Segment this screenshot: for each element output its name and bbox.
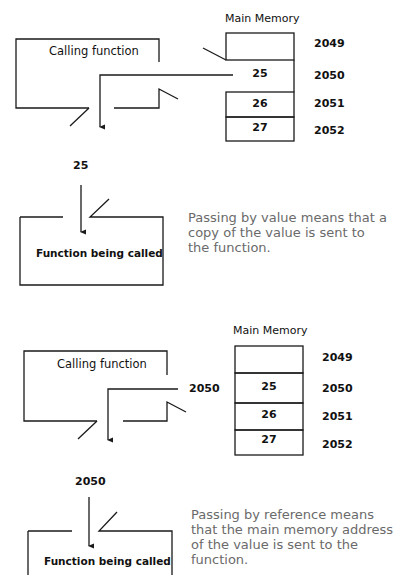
memory-cell-value-2051: 26 [235,408,303,421]
memory-title-reference: Main Memory [233,324,308,337]
memory-address-2051: 2051 [322,410,353,423]
memory-cell-value-2052: 27 [226,121,294,134]
value-caption: Passing by value means that a copy of th… [188,210,388,255]
calling-function-label-value: Calling function [49,44,139,58]
passed-address-label: 2050 [75,475,106,488]
memory-cell-value-2050: 25 [235,380,303,393]
memory-cell-value-2051: 26 [226,97,294,110]
memory-cell-value-2050: 25 [226,67,294,80]
called-function-box-value [20,199,163,285]
passed-value-label: 25 [73,159,88,172]
diagram-canvas: Main Memory Calling function 25 26 27 20… [0,0,405,575]
pointer-address-label: 2050 [189,382,220,395]
called-function-label-reference: Function being called [44,555,171,567]
memory-address-2051: 2051 [314,97,345,110]
reference-caption: Passing by reference means that the main… [191,507,403,567]
memory-address-2049: 2049 [314,37,345,50]
memory-cell-value-2052: 27 [235,433,303,446]
diagram-lines [0,0,405,575]
memory-address-2052: 2052 [314,124,345,137]
memory-address-2050: 2050 [322,382,353,395]
memory-address-2052: 2052 [322,438,353,451]
memory-address-2049: 2049 [322,351,353,364]
memory-address-2050: 2050 [314,69,345,82]
calling-function-label-reference: Calling function [57,357,147,371]
called-function-label-value: Function being called [36,247,163,259]
memory-title-value: Main Memory [225,12,300,25]
value-arrow [100,75,233,127]
